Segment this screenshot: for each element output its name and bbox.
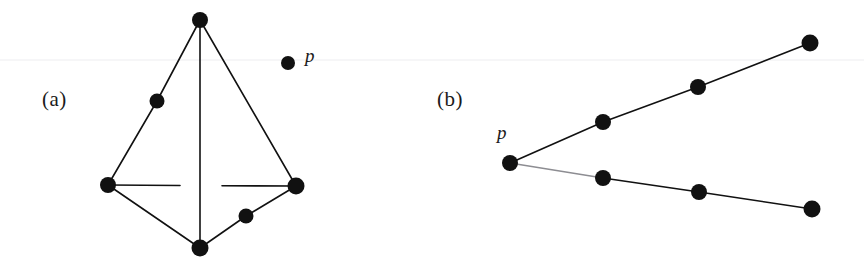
- node-a-isolated-p: [281, 56, 295, 70]
- node-a-apex: [192, 12, 208, 28]
- node-a-bottom: [192, 240, 209, 257]
- node-b-p-vertex: [502, 155, 518, 171]
- node-a-right: [288, 178, 305, 195]
- panel-label-b: (b): [437, 87, 463, 112]
- node-b-lower-node-1: [595, 170, 611, 186]
- node-a-upper-left: [150, 94, 165, 109]
- node-b-lower-endpoint: [804, 201, 821, 218]
- node-b-upper-endpoint: [802, 35, 819, 52]
- figure-canvas: [0, 0, 864, 271]
- node-b-upper-node-2: [690, 79, 706, 95]
- figure-background: [0, 0, 864, 271]
- node-b-upper-node-1: [595, 114, 611, 130]
- node-b-lower-node-2: [691, 184, 707, 200]
- node-a-lower-right: [239, 209, 254, 224]
- point-label-p-panel-a: p: [305, 45, 315, 67]
- node-a-left: [100, 177, 116, 193]
- panel-label-a: (a): [42, 87, 67, 112]
- edge-a-left-to-right-back-1: [108, 185, 180, 186]
- point-label-p-panel-b: p: [497, 122, 507, 144]
- figure-root: (a) (b) p p: [0, 0, 864, 271]
